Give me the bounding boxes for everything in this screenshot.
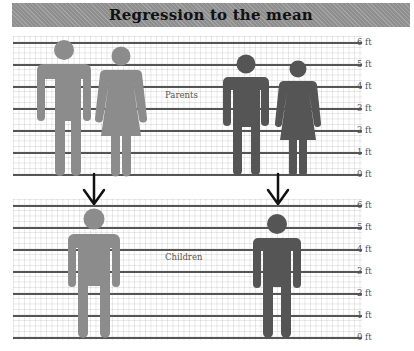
parents-tick-2ft: 2 ft [357,125,372,135]
height-line-5ft [13,227,362,229]
height-line-0ft [13,337,362,339]
parents-tick-4ft: 4 ft [357,81,372,91]
parents-tick-5ft: 5 ft [357,59,372,69]
tall-father-figure-icon [37,39,91,176]
children-tick-4ft: 4 ft [357,244,372,254]
parents-tick-0ft: 0 ft [357,169,372,179]
children-label: Children [165,252,202,262]
children-tick-2ft: 2 ft [357,288,372,298]
children-tick-0ft: 0 ft [357,332,372,342]
child-of-short-parents-figure-icon [253,214,301,338]
parents-tick-3ft: 3 ft [357,103,372,113]
height-line-1ft [13,315,362,317]
children-panel: Children [13,199,362,340]
parents-tick-6ft: 6 ft [357,37,372,47]
parents-panel: Parents [13,36,362,176]
height-line-3ft [13,271,362,273]
child-of-tall-parents-figure-icon [68,208,120,338]
tall-mother-figure-icon [95,46,147,176]
diagram-title: Regression to the mean [109,6,313,24]
children-tick-6ft: 6 ft [357,200,372,210]
height-line-4ft [13,249,362,251]
height-line-2ft [13,293,362,295]
children-tick-3ft: 3 ft [357,266,372,276]
children-tick-5ft: 5 ft [357,222,372,232]
title-banner: Regression to the mean [12,3,410,27]
parents-tick-1ft: 1 ft [357,147,372,157]
short-mother-figure-icon [275,60,321,176]
height-line-6ft [13,205,362,207]
parents-label: Parents [165,90,198,100]
children-tick-1ft: 1 ft [357,310,372,320]
graph-paper-grid [13,199,362,340]
short-father-figure-icon [223,54,269,176]
